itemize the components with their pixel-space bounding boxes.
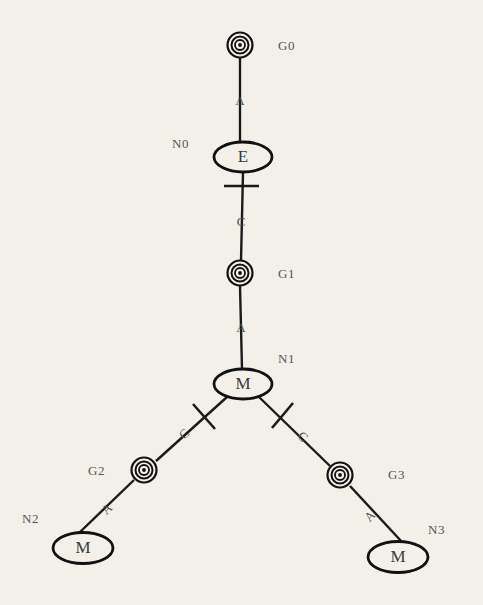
node-label-g0: G0 — [278, 38, 295, 53]
node-n0[interactable]: E N0 — [172, 136, 272, 172]
edge-n1-g2: C — [156, 397, 227, 461]
edge-label-g1-n1: A — [236, 320, 246, 335]
edge-group: A C A C C — [79, 58, 402, 542]
edge-label-n1-g3: C — [295, 428, 311, 445]
node-label-n0: N0 — [172, 136, 189, 151]
edge-n1-g3: C — [259, 397, 330, 466]
bullseye-core-g3 — [338, 473, 342, 477]
node-text-n2: M — [75, 538, 90, 557]
node-g1[interactable]: G1 — [228, 261, 295, 286]
edge-g1-n1: A — [236, 286, 246, 369]
diagram-canvas: A C A C C — [0, 0, 483, 605]
edge-g3-n3: A — [350, 486, 402, 542]
node-label-n2: N2 — [22, 511, 39, 526]
edge-line-n1-g3 — [259, 397, 330, 466]
node-label-n3: N3 — [428, 522, 445, 537]
node-g2[interactable]: G2 — [88, 458, 157, 483]
node-n3[interactable]: M N3 — [368, 522, 445, 573]
bullseye-core-g0 — [238, 43, 242, 47]
tree-diagram: A C A C C — [0, 0, 483, 605]
edge-crossbar-n1-g3 — [272, 403, 293, 428]
node-n1[interactable]: M N1 — [214, 351, 295, 399]
edge-line-n1-g2 — [156, 397, 227, 461]
node-n2[interactable]: M N2 — [22, 511, 113, 564]
node-group: G0 E N0 G1 M N1 — [22, 33, 445, 573]
edge-g0-n0: A — [235, 58, 245, 142]
node-label-n1: N1 — [278, 351, 295, 366]
bullseye-core-g1 — [238, 271, 242, 275]
node-text-n0: E — [238, 147, 248, 166]
node-text-n3: M — [390, 547, 405, 566]
node-g3[interactable]: G3 — [328, 463, 405, 488]
edge-label-g0-n0: A — [235, 93, 245, 108]
edge-g2-n2: A — [79, 480, 134, 533]
node-g0[interactable]: G0 — [228, 33, 295, 58]
edge-line-g3-n3 — [350, 486, 402, 542]
node-text-n1: M — [235, 374, 250, 393]
bullseye-core-g2 — [142, 468, 146, 472]
edge-label-g3-n3: A — [361, 507, 379, 525]
node-label-g3: G3 — [388, 467, 405, 482]
edge-label-n0-g1: C — [237, 214, 246, 229]
edge-n0-g1: C — [224, 173, 259, 261]
node-label-g1: G1 — [278, 266, 295, 281]
edge-label-g2-n2: A — [98, 500, 116, 518]
node-label-g2: G2 — [88, 463, 105, 478]
